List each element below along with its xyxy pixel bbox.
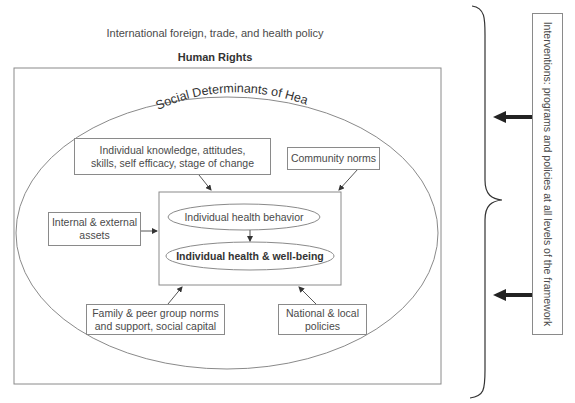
international-policy-label: International foreign, trade, and health… <box>100 27 330 40</box>
arrow-family <box>168 287 182 304</box>
community-norms-box: Community norms <box>287 147 380 170</box>
arrow-national <box>299 287 316 304</box>
wellbeing-label: Individual health & well-being <box>168 250 332 263</box>
national-line1: National & local <box>286 307 359 320</box>
arrow-knowledge <box>199 175 211 190</box>
diagram-canvas: Social Determinants of Health <box>0 0 575 403</box>
assets-line2: assets <box>52 229 137 242</box>
assets-line1: Internal & external <box>52 216 137 229</box>
family-line2: and support, social capital <box>92 320 219 333</box>
interventions-label: Interventions: programs and policies at … <box>542 22 554 327</box>
arrow-community <box>339 169 358 190</box>
national-line2: policies <box>286 320 359 333</box>
knowledge-line2: skills, self efficacy, stage of change <box>91 157 254 170</box>
national-policies-box: National & local policies <box>278 304 367 335</box>
family-box: Family & peer group norms and support, s… <box>86 304 225 335</box>
knowledge-line1: Individual knowledge, attitudes, <box>91 144 254 157</box>
behavior-label: Individual health behavior <box>170 211 318 224</box>
assets-box: Internal & external assets <box>48 212 141 246</box>
knowledge-box: Individual knowledge, attitudes, skills,… <box>74 138 271 175</box>
community-norms-label: Community norms <box>291 152 376 165</box>
framework-brace <box>470 6 502 398</box>
interventions-box: Interventions: programs and policies at … <box>532 13 563 335</box>
intervention-arrowhead-top <box>493 111 506 123</box>
family-line1: Family & peer group norms <box>92 307 219 320</box>
human-rights-label: Human Rights <box>150 51 280 64</box>
intervention-arrowhead-bottom <box>493 289 506 301</box>
